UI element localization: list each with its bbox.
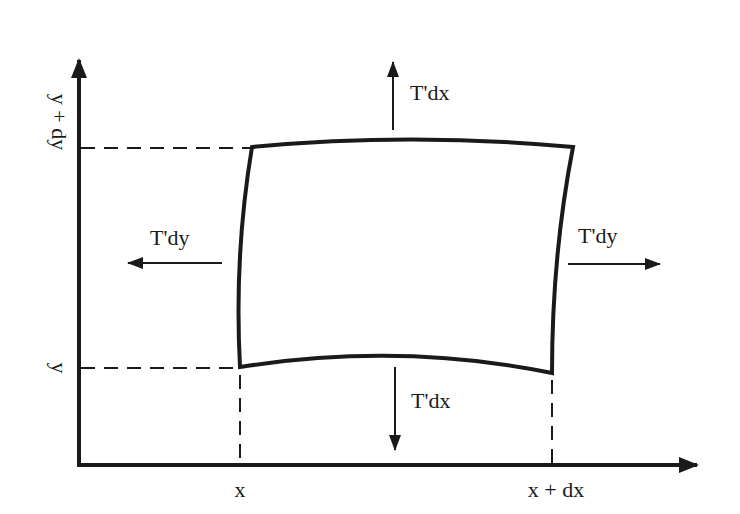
force-label-left: T'dy [150,225,189,250]
force-label-right: T'dy [578,223,617,248]
guide-lines [81,148,552,465]
force-label-top: T'dx [410,80,449,105]
tick-label-y-plus-dy: y + dy [47,94,72,150]
tick-label-x-plus-dx: x + dx [528,477,584,502]
string-element [239,140,574,374]
tick-label-x: x [235,477,246,502]
tick-label-y: y [47,363,72,374]
force-label-bottom: T'dx [411,388,450,413]
diagram-canvas: T'dx T'dx T'dy T'dy x x + dx y y + dy [0,0,740,514]
